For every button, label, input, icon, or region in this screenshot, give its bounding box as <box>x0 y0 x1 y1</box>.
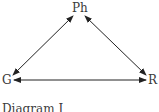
node-g: G <box>2 74 12 86</box>
node-ph: Ph <box>72 2 88 14</box>
node-r: R <box>148 74 157 86</box>
edge-ph-r <box>85 16 146 75</box>
edge-ph-g <box>13 16 73 75</box>
diagram-canvas <box>0 0 159 112</box>
diagram-caption: Diagram I <box>2 103 63 112</box>
